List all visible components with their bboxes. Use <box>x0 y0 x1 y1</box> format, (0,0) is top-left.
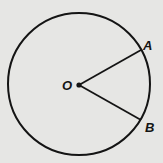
circle-diagram: O A B <box>0 0 163 163</box>
background <box>0 0 163 163</box>
center-point-O <box>76 82 81 87</box>
label-O: O <box>62 78 72 93</box>
label-A: A <box>142 38 152 53</box>
label-B: B <box>145 120 154 135</box>
